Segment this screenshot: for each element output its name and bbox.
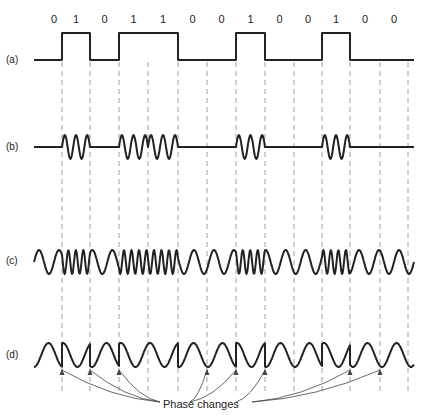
- arrowhead-icon: [88, 369, 93, 375]
- phase-changes-caption: Phase changes: [163, 398, 239, 410]
- row-label-a: (a): [6, 54, 18, 65]
- waveform-b-ask: [34, 135, 414, 159]
- bit-labels: 0101100100100: [51, 13, 397, 25]
- bit-label: 1: [130, 13, 136, 25]
- bit-label: 0: [189, 13, 195, 25]
- bit-label: 0: [391, 13, 397, 25]
- waveform-a-nrz: [34, 33, 414, 60]
- arrowhead-icon: [60, 369, 65, 375]
- arrowhead-icon: [263, 369, 268, 375]
- arrowhead-icon: [205, 369, 210, 375]
- bit-label: 0: [362, 13, 368, 25]
- arrowhead-icon: [348, 369, 353, 375]
- bit-label: 1: [333, 13, 339, 25]
- bit-label: 1: [73, 13, 79, 25]
- phase-change-arrow: [252, 370, 380, 402]
- row-label-d: (d): [6, 349, 18, 360]
- waveform-d-psk: [34, 343, 414, 367]
- bit-label: 1: [247, 13, 253, 25]
- phase-change-arrow: [236, 370, 265, 402]
- phase-change-arrow: [90, 370, 160, 402]
- diagram-canvas: 0101100100100 (a) (b) (c) (d) Phase chan…: [0, 0, 422, 417]
- arrowhead-icon: [378, 369, 383, 375]
- bit-label: 0: [51, 13, 57, 25]
- bit-label: 0: [101, 13, 107, 25]
- waveform-c-fsk: [34, 250, 414, 274]
- bit-label: 0: [276, 13, 282, 25]
- bit-label: 1: [160, 13, 166, 25]
- bit-label: 0: [218, 13, 224, 25]
- row-label-b: (b): [6, 141, 18, 152]
- phase-change-arrow: [62, 370, 160, 402]
- bit-boundary-guides: [62, 62, 408, 392]
- row-label-c: (c): [6, 255, 18, 266]
- bit-label: 0: [305, 13, 311, 25]
- modulation-diagram: 0101100100100 (a) (b) (c) (d) Phase chan…: [0, 0, 422, 417]
